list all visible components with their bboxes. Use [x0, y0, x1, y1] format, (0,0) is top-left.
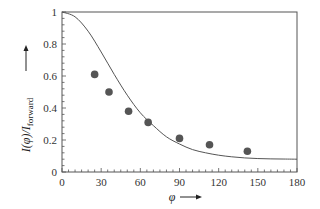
y-tick-label: 0.2: [43, 134, 57, 146]
data-point: [144, 119, 152, 127]
y-axis-label: I(φ)/Iforward: [19, 45, 35, 153]
x-tick-label: 90: [174, 176, 186, 188]
x-tick-label: 180: [289, 176, 306, 188]
y-tick-label: 1: [52, 6, 58, 18]
x-tick-label: 60: [135, 176, 147, 188]
y-arrow-icon: [24, 45, 29, 51]
x-tick-label: 150: [250, 176, 267, 188]
y-tick-label: 0: [52, 166, 58, 178]
x-axis-label: φ: [169, 190, 176, 204]
data-point: [91, 71, 99, 79]
y-tick-label: 0.4: [43, 102, 57, 114]
data-point: [176, 135, 184, 143]
x-tick-label: 0: [59, 176, 65, 188]
x-arrow-icon: [196, 195, 202, 200]
y-tick-label: 0.8: [43, 38, 57, 50]
data-point: [105, 88, 113, 96]
data-point: [125, 107, 133, 115]
svg-text:I(φ)/Iforward: I(φ)/Iforward: [19, 97, 35, 153]
chart: 030609012015018000.20.40.60.81 φI(φ)/Ifo…: [0, 0, 320, 209]
x-tick-label: 30: [96, 176, 108, 188]
y-tick-label: 0.6: [43, 70, 57, 82]
x-tick-label: 120: [210, 176, 227, 188]
axes: 030609012015018000.20.40.60.81: [43, 6, 306, 188]
data-points: [91, 71, 251, 155]
plot-frame: [62, 12, 297, 172]
data-point: [244, 147, 252, 155]
data-point: [206, 141, 214, 149]
